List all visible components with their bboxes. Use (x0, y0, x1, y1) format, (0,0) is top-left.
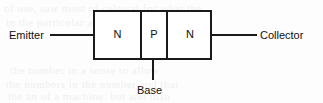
npn-transistor-diagram: of use, saw most of cultural for what th… (0, 0, 323, 103)
emitter-lead-line (50, 34, 93, 36)
background-ghost-text-line-3: the number in a sense to allow (10, 64, 159, 76)
region-label-collector-n: N (168, 27, 212, 41)
collector-terminal-label: Collector (260, 28, 303, 42)
region-label-base-p: P (142, 27, 166, 41)
emitter-terminal-label: Emitter (9, 28, 44, 42)
region-label-emitter-n: N (95, 27, 140, 41)
base-lead-line (152, 60, 154, 80)
collector-lead-line (212, 34, 257, 36)
base-terminal-label: Base (137, 83, 162, 97)
